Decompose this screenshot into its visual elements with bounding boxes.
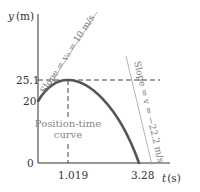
curve-label-line1: Position-time xyxy=(35,118,101,129)
position-time-diagram: y(m) t(s) 25.1 20 0 1.019 3.28 Position-… xyxy=(0,0,200,192)
slope-annotation-initial: Slope = v₀ = 10 m/s xyxy=(38,13,96,95)
slope-annotation-final: Slope = v = −22.2 m/s xyxy=(132,60,166,164)
x-tick-1-019: 1.019 xyxy=(58,169,88,181)
y-axis-label: y(m) xyxy=(7,10,34,22)
x-tick-3-28: 3.28 xyxy=(131,169,154,181)
y-tick-20: 20 xyxy=(23,95,36,107)
y-tick-25-1: 25.1 xyxy=(16,74,39,86)
origin-label: 0 xyxy=(27,157,34,169)
x-axis-label: t(s) xyxy=(162,172,181,184)
curve-label-line2: curve xyxy=(54,129,82,140)
